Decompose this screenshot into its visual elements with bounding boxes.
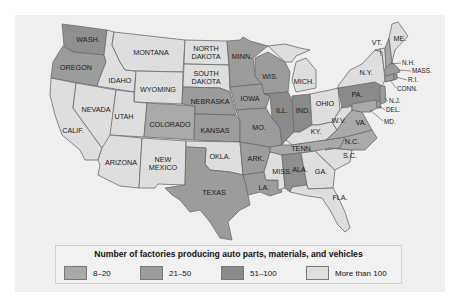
label-del: DEL.: [386, 106, 400, 113]
label-ala: ALA.: [292, 165, 308, 174]
label-wyoming: WYOMING: [140, 85, 176, 94]
legend-item-21-50: 21–50: [140, 265, 191, 281]
label-mexico: MEXICO: [149, 163, 178, 172]
legend-label: 8–20: [93, 269, 111, 278]
legend-swatch: [306, 266, 329, 280]
label-mass: MASS.: [412, 67, 432, 74]
label-utah: UTAH: [114, 112, 133, 121]
label-ny: N.Y.: [359, 68, 372, 77]
label-arizona: ARIZONA: [105, 158, 137, 167]
label-pa: PA.: [351, 90, 362, 99]
label-nevada: NEVADA: [81, 105, 110, 114]
legend-title: Number of factories producing auto parts…: [56, 249, 401, 259]
label-nc: N.C.: [345, 137, 359, 146]
label-sc: S.C.: [343, 151, 357, 160]
legend-label: 51–100: [250, 269, 277, 278]
label-nj: N.J.: [389, 97, 401, 104]
label-nh: N.H.: [402, 59, 415, 66]
label-iowa: IOWA: [241, 94, 260, 103]
legend-label: 21–50: [169, 269, 191, 278]
label-wis: WIS.: [262, 72, 278, 81]
label-md: MD.: [384, 118, 396, 125]
label-dakota-s: DAKOTA: [191, 77, 220, 86]
label-ohio: OHIO: [316, 99, 335, 108]
label-ark: ARK.: [248, 154, 265, 163]
label-mich: MICH.: [294, 77, 314, 86]
label-kansas: KANSAS: [200, 126, 229, 135]
label-okla: OKLA.: [209, 152, 230, 161]
label-fla: FLA.: [332, 193, 347, 202]
label-ill: ILL.: [276, 106, 288, 115]
label-idaho: IDAHO: [109, 76, 132, 85]
map-legend: Number of factories producing auto parts…: [55, 245, 402, 284]
state-new-jersey: [380, 86, 386, 104]
label-miss: MISS.: [272, 167, 292, 176]
label-montana: MONTANA: [133, 48, 169, 57]
legend-swatch: [221, 266, 244, 280]
label-me: ME.: [394, 34, 407, 43]
label-la: LA.: [259, 183, 270, 192]
label-dakota-n: DAKOTA: [191, 52, 220, 61]
label-mo: MO.: [252, 123, 266, 132]
legend-item-51-100: 51–100: [221, 265, 277, 281]
label-nebraska: NEBRASKA: [190, 97, 229, 106]
legend-item-8-20: 8–20: [64, 265, 111, 281]
label-minn: MINN.: [232, 52, 252, 61]
label-colorado: COLORADO: [149, 120, 191, 129]
label-conn: CONN.: [397, 85, 418, 92]
label-calif: CALIF.: [62, 126, 84, 135]
legend-swatch: [64, 266, 87, 280]
label-vt: VT.: [372, 38, 382, 47]
legend-item-more-than-100: More than 100: [306, 265, 387, 281]
label-va: VA.: [355, 118, 366, 127]
label-texas: TEXAS: [202, 188, 226, 197]
label-oregon: OREGON: [60, 63, 92, 72]
label-wash: WASH.: [76, 35, 99, 44]
legend-label: More than 100: [335, 269, 387, 278]
label-ri: R.I.: [408, 76, 418, 83]
legend-swatch: [140, 266, 163, 280]
label-wv: W.V.: [332, 116, 347, 125]
label-ga: GA.: [315, 167, 327, 176]
label-tenn: TENN.: [291, 144, 313, 153]
label-ind: IND.: [296, 106, 310, 115]
label-ky: KY.: [311, 127, 322, 136]
